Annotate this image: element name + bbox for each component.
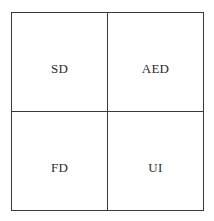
quadrant-label-ui: UI — [148, 161, 162, 174]
quadrant-cell-bottom-right: UI — [108, 112, 204, 211]
quadrant-cell-top-left: SD — [12, 13, 108, 112]
quadrant-cell-bottom-left: FD — [12, 112, 108, 211]
quadrant-label-aed: AED — [142, 62, 170, 75]
quadrant-grid: SD AED FD UI — [11, 12, 204, 211]
quadrant-label-sd: SD — [51, 62, 68, 75]
quadrant-cell-top-right: AED — [108, 13, 204, 112]
quadrant-label-fd: FD — [51, 161, 68, 174]
